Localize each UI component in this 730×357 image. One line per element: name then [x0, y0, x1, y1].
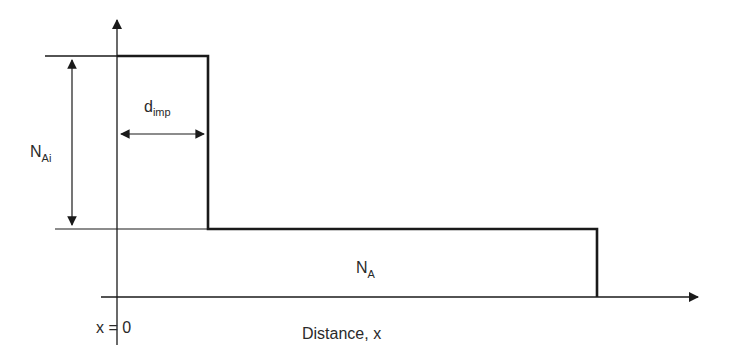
implant-conc-label: NAi	[30, 143, 51, 164]
doping-profile-diagram: NAi dimp NA x = 0 Distance, x	[0, 0, 730, 357]
implant-depth-label: dimp	[144, 98, 171, 118]
x-axis-label: Distance, x	[302, 325, 381, 342]
background-conc-label: NA	[356, 259, 376, 280]
origin-label: x = 0	[96, 319, 131, 336]
